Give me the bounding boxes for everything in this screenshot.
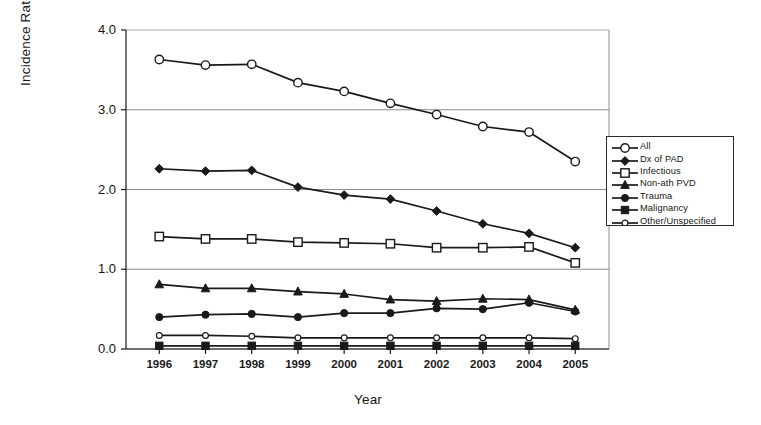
data-point <box>156 333 162 339</box>
data-point <box>387 342 394 349</box>
series-line <box>159 60 575 162</box>
legend-marker-glyph <box>621 169 629 177</box>
data-point <box>571 243 580 252</box>
data-point <box>433 342 440 349</box>
series-other-unspecified <box>156 333 578 342</box>
series-line <box>159 335 575 338</box>
data-point <box>341 335 347 341</box>
data-point <box>525 128 533 136</box>
data-point <box>480 335 486 341</box>
data-point <box>249 333 255 339</box>
data-point <box>201 61 209 69</box>
series-line <box>159 169 575 248</box>
data-point <box>340 342 347 349</box>
legend-item-label: Malignancy <box>640 203 688 213</box>
data-point <box>432 244 440 252</box>
legend-marker-glyph <box>622 220 628 226</box>
legend-marker-icon <box>610 202 640 214</box>
data-point <box>294 238 302 246</box>
data-point <box>387 310 394 317</box>
series-line <box>159 303 575 317</box>
legend-item-non-ath-pvd[interactable]: Non-ath PVD <box>610 177 731 189</box>
data-point <box>434 335 440 341</box>
incidence-rate-line-chart: Incidence Rate (per 10,000 pop) 0.01.02.… <box>0 0 761 425</box>
legend-item-label: Infectious <box>640 166 681 176</box>
data-point <box>386 240 394 248</box>
data-point <box>247 166 256 175</box>
x-axis-title: Year <box>148 392 588 407</box>
data-point <box>571 259 579 267</box>
data-point <box>294 78 302 86</box>
legend-marker-icon <box>610 140 640 152</box>
data-point <box>155 164 164 173</box>
data-point <box>571 157 579 165</box>
chart-legend: AllDx of PADInfectiousNon-ath PVDTraumaM… <box>606 136 734 226</box>
data-point <box>248 60 256 68</box>
data-point <box>572 308 579 315</box>
legend-marker-icon <box>610 215 640 226</box>
data-point <box>525 243 533 251</box>
legend-item-label: Other/Unspecified <box>640 216 716 226</box>
data-series-layer <box>155 55 580 349</box>
data-point <box>340 191 349 200</box>
data-point <box>155 232 163 240</box>
series-all <box>155 55 579 165</box>
data-point <box>201 235 209 243</box>
legend-item-label: Trauma <box>640 191 672 201</box>
series-infectious <box>155 232 579 267</box>
series-line <box>159 284 575 310</box>
data-point <box>294 342 301 349</box>
data-point <box>156 314 163 321</box>
data-point <box>479 342 486 349</box>
data-point <box>432 110 440 118</box>
data-point <box>387 335 393 341</box>
data-point <box>156 342 163 349</box>
data-point <box>572 336 578 342</box>
data-point <box>432 207 441 216</box>
data-point <box>525 299 532 306</box>
data-point <box>248 310 255 317</box>
data-point <box>340 87 348 95</box>
legend-marker-glyph <box>621 144 629 152</box>
data-point <box>201 167 210 176</box>
data-point <box>155 55 163 63</box>
legend-item-label: Dx of PAD <box>640 154 684 164</box>
legend-item-all[interactable]: All <box>610 140 731 152</box>
legend-item-other-unspecified[interactable]: Other/Unspecified <box>610 214 731 226</box>
legend-marker-icon <box>610 153 640 165</box>
legend-item-infectious[interactable]: Infectious <box>610 165 731 177</box>
data-point <box>479 244 487 252</box>
data-point <box>433 305 440 312</box>
legend-item-label: All <box>640 141 651 151</box>
data-point <box>525 229 534 238</box>
data-point <box>155 280 164 288</box>
legend-marker-icon <box>610 177 640 189</box>
data-point <box>248 342 255 349</box>
data-point <box>294 183 303 192</box>
data-point <box>526 335 532 341</box>
data-point <box>386 99 394 107</box>
data-point <box>479 122 487 130</box>
data-point <box>294 314 301 321</box>
legend-marker-glyph <box>621 194 628 201</box>
legend-item-label: Non-ath PVD <box>640 178 696 188</box>
data-point <box>341 310 348 317</box>
legend-marker-glyph <box>621 156 630 165</box>
legend-marker-icon <box>610 165 640 177</box>
data-point <box>479 306 486 313</box>
data-point <box>202 311 209 318</box>
data-point <box>295 335 301 341</box>
legend-marker-icon <box>610 190 640 202</box>
data-point <box>572 342 579 349</box>
data-point <box>478 219 487 228</box>
series-line <box>159 237 575 263</box>
series-non-ath-pvd <box>155 280 580 314</box>
series-trauma <box>156 299 579 321</box>
legend-item-malignancy[interactable]: Malignancy <box>610 202 731 214</box>
legend-marker-glyph <box>621 206 628 213</box>
legend-item-trauma[interactable]: Trauma <box>610 190 731 202</box>
data-point <box>340 239 348 247</box>
data-point <box>386 195 395 204</box>
legend-item-dx-of-pad[interactable]: Dx of PAD <box>610 152 731 164</box>
data-point <box>203 333 209 339</box>
